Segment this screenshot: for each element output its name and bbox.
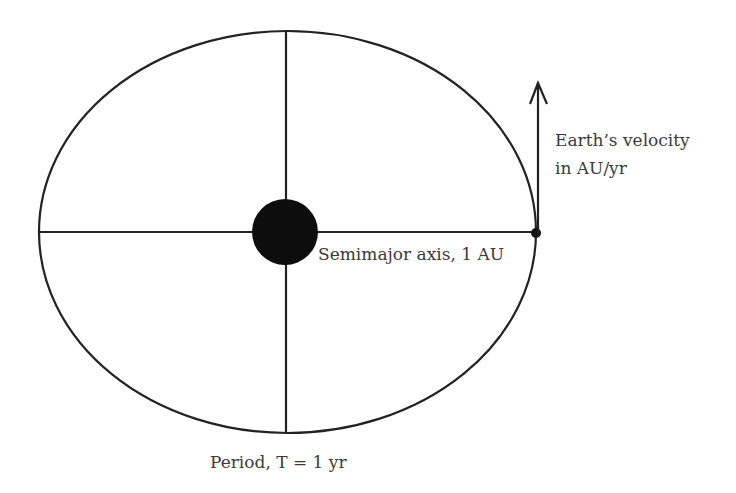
velocity-label-line1: Earth’s velocity bbox=[555, 129, 690, 151]
velocity-label-line2: in AU/yr bbox=[555, 157, 627, 179]
period-label: Period, T = 1 yr bbox=[210, 451, 347, 473]
sun-circle bbox=[252, 199, 318, 265]
earth-dot bbox=[531, 228, 541, 238]
semimajor-axis-label: Semimajor axis, 1 AU bbox=[318, 243, 504, 265]
